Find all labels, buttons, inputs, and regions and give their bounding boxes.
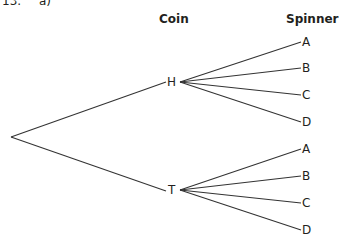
branch-h-b xyxy=(180,68,301,82)
leaf-h-d: D xyxy=(302,115,311,129)
branch-t-a xyxy=(180,149,301,190)
node-h: H xyxy=(167,75,176,89)
leaf-h-b: B xyxy=(302,61,310,75)
branch-h-a xyxy=(180,42,301,82)
leaf-t-a: A xyxy=(302,142,311,156)
leaf-t-d: D xyxy=(302,223,311,237)
branch-root-h xyxy=(11,82,166,137)
node-t: T xyxy=(167,183,176,197)
branch-t-b xyxy=(180,176,301,190)
leaf-t-c: C xyxy=(302,196,310,210)
leaf-h-c: C xyxy=(302,88,310,102)
leaf-t-b: B xyxy=(302,169,310,183)
branch-root-t xyxy=(11,137,166,191)
leaf-h-a: A xyxy=(302,35,311,49)
